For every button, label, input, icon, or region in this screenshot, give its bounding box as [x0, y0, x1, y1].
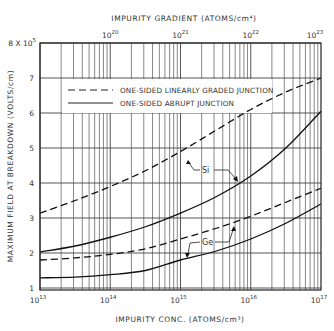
- y-tick-label: 5: [29, 144, 34, 153]
- annotation-si: Si: [202, 166, 209, 175]
- y-top-tick-label: 8 X 105: [8, 37, 36, 48]
- ge-leader-left: [188, 242, 200, 254]
- x-tick-label: 1017: [311, 294, 328, 305]
- top-axis-title: IMPURITY GRADIENT (ATOMS/cm⁴): [111, 14, 256, 23]
- breakdown-field-chart: ONE-SIDED LINEARLY GRADED JUNCTION ONE-S…: [0, 0, 334, 331]
- top-tick-label: 1022: [242, 29, 259, 40]
- si-arrow-left: [186, 160, 191, 164]
- material-annotations: Si Ge: [185, 160, 238, 258]
- top-tick-label: 1023: [307, 29, 324, 40]
- y-tick-label: 2: [29, 249, 34, 258]
- top-tick-label: 1020: [102, 29, 119, 40]
- top-tick-label: 1021: [172, 29, 189, 40]
- legend-label-abrupt: ONE-SIDED ABRUPT JUNCTION: [120, 99, 234, 108]
- x-tick-label: 1014: [100, 294, 117, 305]
- si-leader-right: [214, 170, 236, 179]
- x-tick-label: 1016: [240, 294, 257, 305]
- x-tick-label: 1013: [30, 294, 47, 305]
- legend-label-graded: ONE-SIDED LINEARLY GRADED JUNCTION: [120, 86, 274, 95]
- si-leader-left: [189, 163, 200, 170]
- ge-leader-right: [215, 230, 233, 242]
- annotation-ge: Ge: [202, 238, 213, 247]
- y-tick-label: 3: [29, 214, 34, 223]
- y-tick-label: 6: [29, 109, 34, 118]
- x-axis-title: IMPURITY CONC. (ATOMS/cm³): [115, 315, 244, 324]
- x-tick-label: 1015: [170, 294, 187, 305]
- y-tick-label: 4: [29, 179, 34, 188]
- y-axis-title: MAXIMUM FIELD AT BREAKDOWN (VOLTS/cm): [6, 70, 15, 263]
- y-tick-label: 7: [29, 74, 34, 83]
- y-tick-label: 1: [29, 284, 34, 293]
